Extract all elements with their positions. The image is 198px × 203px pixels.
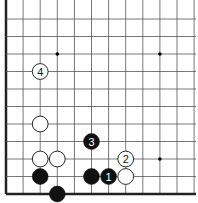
move-number-label: 4 (37, 66, 43, 78)
stone-icon (32, 169, 48, 185)
star-point-icon (56, 52, 60, 56)
white-stone (118, 169, 134, 185)
white-stone (49, 151, 65, 167)
stone-icon (49, 186, 65, 202)
white-stone: 4 (32, 64, 48, 80)
stone-icon (118, 169, 134, 185)
stone-icon (84, 169, 100, 185)
white-stone: 2 (118, 151, 134, 167)
white-stone (32, 116, 48, 132)
black-stone (32, 169, 48, 185)
stone-icon (32, 116, 48, 132)
go-board: 1234 (0, 0, 198, 203)
stone-icon (49, 151, 65, 167)
white-stone (32, 151, 48, 167)
black-stone: 3 (84, 134, 100, 150)
star-point-icon (158, 157, 162, 161)
star-point-icon (158, 52, 162, 56)
black-stone: 1 (101, 169, 117, 185)
move-number-label: 3 (88, 136, 94, 148)
stone-icon (32, 151, 48, 167)
black-stone (84, 169, 100, 185)
move-number-label: 1 (106, 171, 112, 183)
move-number-label: 2 (123, 153, 129, 165)
stones: 1234 (32, 64, 133, 202)
black-stone (49, 186, 65, 202)
